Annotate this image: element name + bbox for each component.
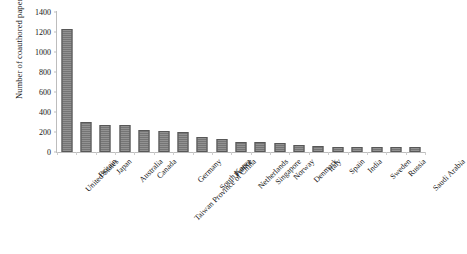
bar-slot — [289, 12, 308, 152]
bar[interactable] — [332, 147, 343, 153]
bar-slot — [386, 12, 405, 152]
x-axis-tick-mark — [309, 152, 310, 155]
x-axis-tick-mark — [154, 152, 155, 155]
x-axis-tick-mark — [289, 152, 290, 155]
bar-slot — [231, 12, 250, 152]
x-axis-line — [56, 152, 425, 153]
x-axis-category-label: Spain — [347, 157, 366, 176]
bar-slot — [348, 12, 367, 152]
bar[interactable] — [61, 29, 72, 152]
y-axis-tick: 400 — [39, 108, 57, 117]
y-axis-tick-label: 800 — [39, 68, 54, 77]
bar[interactable] — [294, 145, 305, 152]
y-axis-tick-label: 600 — [39, 88, 54, 97]
bar[interactable] — [352, 147, 363, 153]
bar[interactable] — [100, 125, 111, 152]
x-axis-tick-mark — [328, 152, 329, 155]
x-axis-tick-mark — [173, 152, 174, 155]
x-axis-tick-mark — [193, 152, 194, 155]
y-axis-tick: 1200 — [35, 28, 57, 37]
x-axis-tick-mark — [76, 152, 77, 155]
y-axis-tick-label: 1200 — [35, 28, 54, 37]
y-axis-tick-label: 1400 — [35, 8, 54, 17]
y-axis-title: Number of coauthored papers published — [14, 0, 24, 104]
bar[interactable] — [197, 137, 208, 152]
bar-slot — [57, 12, 76, 152]
bar-slot — [173, 12, 192, 152]
y-axis-tick-label: 1000 — [35, 48, 54, 57]
bar[interactable] — [390, 147, 401, 152]
x-axis-tick-mark — [134, 152, 135, 155]
bar-slot — [193, 12, 212, 152]
bar[interactable] — [177, 132, 188, 152]
x-axis-tick-mark — [386, 152, 387, 155]
plot-area: 0200400600800100012001400 — [57, 12, 425, 152]
bar-slot — [251, 12, 270, 152]
bar-slot — [154, 12, 173, 152]
x-axis-category-label: Germany — [196, 157, 223, 184]
x-axis-tick-mark — [231, 152, 232, 155]
bar-slot — [328, 12, 347, 152]
bar-slot — [115, 12, 134, 152]
bar[interactable] — [410, 147, 421, 152]
x-axis-category-label: Saudi Arabia — [431, 157, 467, 193]
x-axis-tick-mark — [96, 152, 97, 155]
y-axis-tick: 200 — [39, 128, 57, 137]
y-axis-tick-label: 200 — [39, 128, 54, 137]
bar[interactable] — [81, 122, 92, 152]
bar[interactable] — [216, 139, 227, 153]
x-axis-tick-mark — [367, 152, 368, 155]
bar[interactable] — [139, 130, 150, 152]
y-axis-tick-label: 0 — [47, 148, 54, 157]
x-axis-tick-mark — [270, 152, 271, 155]
bar-series — [57, 12, 425, 152]
y-axis-tick-label: 400 — [39, 108, 54, 117]
bar-slot — [76, 12, 95, 152]
bar[interactable] — [235, 142, 246, 153]
bar[interactable] — [158, 131, 169, 152]
bar-slot — [367, 12, 386, 152]
x-axis-tick-mark — [115, 152, 116, 155]
bar-slot — [270, 12, 289, 152]
x-axis-tick-mark — [425, 152, 426, 155]
bar[interactable] — [371, 147, 382, 152]
bar[interactable] — [119, 125, 130, 152]
bar-slot — [134, 12, 153, 152]
y-axis-tick: 1000 — [35, 48, 57, 57]
bar[interactable] — [255, 142, 266, 152]
x-axis-tick-mark — [212, 152, 213, 155]
bar-slot — [96, 12, 115, 152]
bar[interactable] — [313, 146, 324, 152]
bar[interactable] — [274, 143, 285, 153]
y-axis-tick: 1400 — [35, 8, 57, 17]
x-axis-category-label: India — [366, 157, 384, 175]
x-axis-tick-mark — [406, 152, 407, 155]
y-axis-tick: 800 — [39, 68, 57, 77]
bar-slot — [212, 12, 231, 152]
x-axis-tick-mark — [57, 152, 58, 155]
bar-slot — [309, 12, 328, 152]
bar-slot — [406, 12, 425, 152]
y-axis-tick: 600 — [39, 88, 57, 97]
y-axis-tick: 0 — [47, 148, 57, 157]
x-axis-tick-mark — [251, 152, 252, 155]
x-axis-tick-mark — [348, 152, 349, 155]
